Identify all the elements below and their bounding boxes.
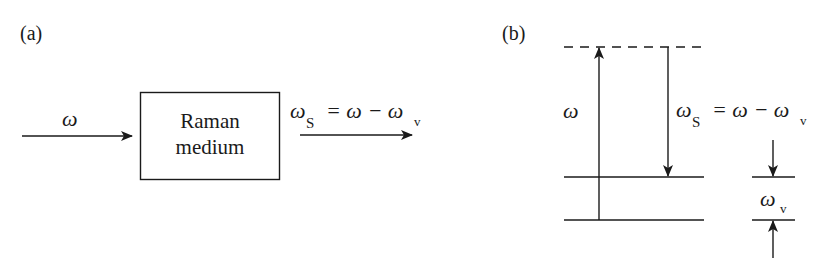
pump-frequency-label: ω	[563, 98, 579, 123]
stokes-subscript: S	[306, 115, 314, 131]
raman-diagram: (a) ω Raman medium ω S = ω − ω v (b) ω ω…	[0, 0, 816, 269]
panel-b-label: (b)	[502, 22, 525, 45]
vib-omega: ω	[760, 186, 776, 211]
stokes-omega: ω	[290, 98, 306, 123]
panel-b: (b) ω ω S = ω − ω v ω v	[502, 22, 807, 258]
raman-medium-line2: medium	[176, 135, 245, 159]
stokes-equation-rhs: = ω − ω	[326, 98, 403, 123]
stokes-equation-rhs-b: = ω − ω	[712, 97, 789, 122]
input-frequency-label: ω	[62, 106, 78, 131]
vibrational-subscript: v	[414, 114, 421, 129]
panel-a-label: (a)	[20, 22, 42, 45]
vibrational-subscript-b: v	[800, 113, 807, 128]
stokes-level-equation: ω S = ω − ω v	[676, 97, 807, 130]
stokes-subscript-b: S	[692, 114, 700, 130]
panel-a: (a) ω Raman medium ω S = ω − ω v	[20, 22, 421, 180]
raman-medium-line1: Raman	[180, 109, 240, 133]
stokes-output-equation: ω S = ω − ω v	[290, 98, 421, 131]
vib-subscript: v	[780, 201, 787, 216]
stokes-omega-b: ω	[676, 97, 692, 122]
